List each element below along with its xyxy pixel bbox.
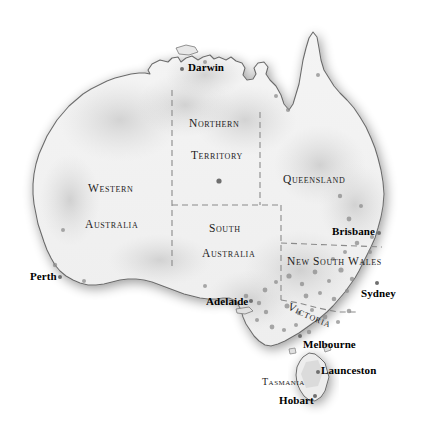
interior-marker-alice-springs (216, 178, 221, 183)
city-marker-brisbane[interactable] (377, 231, 381, 235)
city-label-launceston[interactable]: Launceston (321, 365, 376, 376)
city-label-hobart[interactable]: Hobart (279, 395, 314, 406)
city-marker-sydney[interactable] (375, 281, 379, 285)
australia-map: Western Australia Northern Territory Sou… (0, 0, 423, 430)
city-label-darwin[interactable]: Darwin (188, 62, 224, 73)
city-marker-perth[interactable] (58, 275, 62, 279)
state-label-tasmania: Tasmania (262, 377, 305, 387)
city-marker-melbourne[interactable] (298, 334, 302, 338)
city-marker-darwin[interactable] (180, 67, 184, 71)
city-label-adelaide[interactable]: Adelaide (206, 296, 248, 307)
king-island (289, 348, 296, 354)
city-label-brisbane[interactable]: Brisbane (332, 226, 375, 237)
state-label-queensland: Queensland (283, 174, 345, 186)
state-label-new-south-wales: New South Wales (287, 256, 382, 268)
state-label-south-australia-line2: Australia (202, 248, 255, 260)
state-label-south-australia-line1: South (209, 223, 241, 235)
state-label-victoria: Victoria (285, 305, 365, 335)
city-label-melbourne[interactable]: Melbourne (303, 339, 356, 350)
city-label-perth[interactable]: Perth (30, 271, 57, 282)
city-label-sydney[interactable]: Sydney (361, 288, 396, 299)
state-label-northern-territory-line2: Territory (191, 150, 243, 162)
state-label-western-australia-line1: Western (88, 183, 133, 195)
city-marker-launceston[interactable] (316, 370, 320, 374)
state-label-western-australia-line2: Australia (85, 219, 138, 231)
city-marker-adelaide[interactable] (249, 299, 253, 303)
state-label-northern-territory-line1: Northern (189, 118, 239, 130)
melville-island (176, 45, 198, 55)
state-label-victoria-text: Victoria (286, 300, 333, 329)
